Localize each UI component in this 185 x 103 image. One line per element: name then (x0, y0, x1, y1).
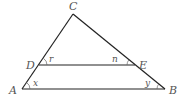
angle-label-y: y (144, 78, 151, 88)
angle-label-r: r (49, 54, 54, 64)
segment-ac (22, 14, 73, 89)
angle-arc-n (127, 60, 129, 65)
vertex-label-a: A (8, 84, 17, 97)
vertex-label-d: D (25, 59, 35, 72)
angle-arc-x (27, 82, 31, 89)
angle-arc-y (157, 84, 159, 89)
angle-label-n: n (112, 54, 118, 64)
triangle-diagram: C D E A B r n x y (0, 0, 185, 103)
segment-bc (73, 14, 165, 89)
vertex-label-c: C (69, 0, 78, 13)
vertex-label-b: B (168, 84, 177, 97)
vertex-label-e: E (138, 59, 147, 72)
angle-label-x: x (33, 78, 38, 88)
angle-arc-r (44, 58, 48, 65)
